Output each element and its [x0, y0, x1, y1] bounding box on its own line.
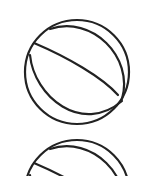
ball-icon [22, 137, 132, 176]
ball-icon-graphic [22, 17, 132, 127]
ball-icon [22, 17, 132, 127]
ball-icon-graphic [22, 137, 132, 176]
